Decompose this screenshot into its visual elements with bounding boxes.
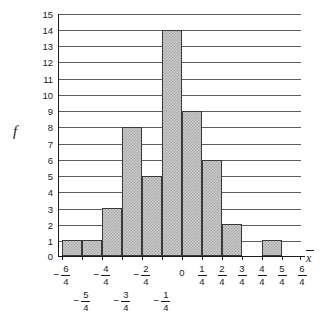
- y-axis-label: f: [13, 124, 17, 139]
- x-tick-label-neg-5-4: − 5 4: [67, 290, 97, 313]
- minus-sign: −: [134, 270, 140, 280]
- histogram-bar: [142, 176, 162, 256]
- y-tick-label-10: 10: [27, 91, 53, 101]
- histogram-bar: [82, 240, 102, 256]
- y-tick-label-14: 14: [27, 26, 53, 36]
- x-tick-label-neg-2-4: − 2 4: [127, 264, 157, 287]
- y-tick-label-1: 1: [27, 237, 53, 247]
- x-tick: [82, 256, 83, 260]
- minus-sign: −: [74, 296, 80, 306]
- minus-sign: −: [94, 270, 100, 280]
- histogram-bar: [182, 111, 202, 256]
- y-tick-label-4: 4: [27, 188, 53, 198]
- x-tick-label-neg-6-4: − 6 4: [47, 264, 77, 287]
- y-tick-label-8: 8: [27, 123, 53, 133]
- y-tick-label-12: 12: [27, 58, 53, 68]
- plot-area: [58, 14, 301, 256]
- x-tick: [262, 256, 263, 260]
- x-tick: [62, 256, 63, 260]
- y-tick-label-15: 15: [27, 10, 53, 20]
- x-tick: [300, 256, 301, 260]
- x-tick-label-neg-1-4: − 1 4: [147, 290, 177, 313]
- y-tick-label-2: 2: [27, 221, 53, 231]
- histogram-bar: [62, 240, 82, 256]
- histogram-bar: [222, 224, 242, 256]
- histogram-bar: [122, 127, 142, 256]
- y-tick-label-5: 5: [27, 172, 53, 182]
- x-tick-label-6-4: 6 4: [287, 264, 317, 287]
- y-tick-label-13: 13: [27, 42, 53, 52]
- x-tick: [242, 256, 243, 260]
- histogram-bar: [102, 208, 122, 256]
- x-tick: [122, 256, 123, 260]
- x-tick-label-neg-3-4: − 3 4: [107, 290, 137, 313]
- x-tick: [282, 256, 283, 260]
- x-tick: [162, 256, 163, 260]
- histogram-chart: f 15 14 13 12 11 10 9 8 7 6 5 4 3 2 1 0: [0, 0, 332, 317]
- x-tick: [202, 256, 203, 260]
- x-tick-label-neg-4-4: − 4 4: [87, 264, 117, 287]
- histogram-bar: [202, 160, 222, 256]
- x-tick: [182, 256, 183, 260]
- histogram-bar: [262, 240, 282, 256]
- minus-sign: −: [54, 270, 60, 280]
- x-tick: [222, 256, 223, 260]
- histogram-bar: [162, 30, 182, 256]
- y-tick-label-9: 9: [27, 107, 53, 117]
- y-tick-label-0: 0: [27, 252, 53, 262]
- minus-sign: −: [114, 296, 120, 306]
- y-tick-label-3: 3: [27, 205, 53, 215]
- x-tick: [102, 256, 103, 260]
- y-tick-label-6: 6: [27, 156, 53, 166]
- y-tick-label-7: 7: [27, 140, 53, 150]
- minus-sign: −: [154, 296, 160, 306]
- x-tick: [142, 256, 143, 260]
- x-axis-label: x: [306, 250, 314, 264]
- y-tick-label-11: 11: [27, 75, 53, 85]
- overbar: [306, 250, 314, 251]
